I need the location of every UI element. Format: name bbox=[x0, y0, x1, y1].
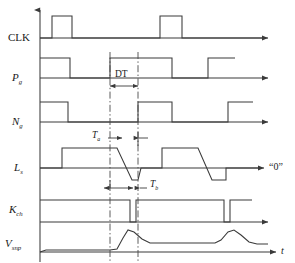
waveform-ng bbox=[40, 102, 253, 122]
waveform-canvas bbox=[0, 0, 295, 263]
signal-label-ls: Ls bbox=[14, 162, 23, 176]
signal-label-clk: CLK bbox=[8, 32, 30, 46]
annotation-ta: Ta bbox=[92, 131, 100, 143]
waveform-pg bbox=[40, 58, 235, 78]
waveform-ls bbox=[40, 148, 262, 180]
signal-label-kch: Kch bbox=[9, 204, 23, 218]
signal-label-ng: Ng bbox=[12, 116, 23, 130]
annotation-zero-level: “0” bbox=[269, 162, 283, 172]
signal-label-vsnp: Vsnp bbox=[5, 238, 21, 252]
axis-label-time: t bbox=[281, 246, 284, 256]
timing-diagram-figure: CLK Pg Ng Ls Kch Vsnp DT Ta Tb “0” t bbox=[0, 0, 295, 263]
waveform-clk bbox=[40, 16, 266, 38]
annotation-tb: Tb bbox=[150, 180, 158, 192]
annotation-dt: DT bbox=[115, 70, 128, 82]
waveform-vsnp bbox=[40, 230, 268, 252]
waveform-kch bbox=[40, 200, 252, 222]
signal-label-pg: Pg bbox=[12, 72, 22, 86]
